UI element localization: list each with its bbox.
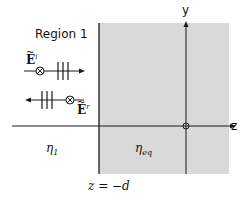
into-page-cross-icon [66, 96, 74, 104]
arrowhead-left-icon [25, 98, 31, 103]
shaded-region-eq [99, 23, 229, 174]
y-axis-label: y [182, 4, 189, 16]
reflected-field-label: ~Er [77, 104, 90, 116]
arrowhead-right-icon [79, 69, 85, 74]
incident-field-label: ~Ei [26, 54, 37, 66]
equivalent-impedance-label: ηeq [135, 142, 152, 157]
medium-1-impedance-label: η1 [46, 142, 58, 157]
boundary-position-label: z = −d [88, 180, 130, 192]
reflected-wave-arrow [25, 91, 84, 109]
z-axis-label: z [231, 120, 237, 132]
region-label: Region 1 [35, 28, 88, 40]
diagram-canvas: Region 1 ~Ei ~Er η1 ηeq z = −d y z [0, 0, 245, 197]
into-page-cross-icon [36, 67, 44, 75]
